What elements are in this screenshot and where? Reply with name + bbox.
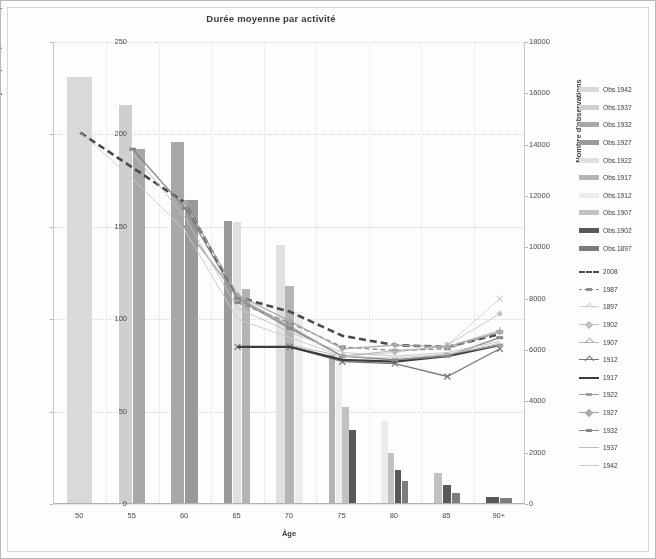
legend-label: 1927 — [603, 409, 618, 416]
y-axis-left-tick-label: 150 — [81, 222, 127, 231]
chart-title: Durée moyenne par activité — [1, 13, 541, 24]
legend-line-icon — [579, 285, 599, 294]
line-series — [80, 133, 500, 347]
legend-line-icon — [579, 461, 599, 470]
line-marker — [129, 148, 136, 151]
y-axis-right-tickmark — [525, 401, 528, 402]
legend-label: Obs.1942 — [603, 86, 632, 93]
x-axis-tick-label: 70 — [269, 511, 309, 520]
legend-item-bar[interactable]: Obs.1922 — [579, 151, 655, 169]
legend-label: 1922 — [603, 391, 618, 398]
legend-item-line[interactable]: 1937 — [579, 439, 655, 457]
y-axis-left-tickmark — [50, 134, 53, 135]
legend-label: Obs.1897 — [603, 245, 632, 252]
legend-item-line[interactable]: 1927 — [579, 404, 655, 422]
y-axis-right-tickmark — [525, 247, 528, 248]
y-axis-left-tickmark — [50, 319, 53, 320]
legend-swatch-icon — [579, 140, 599, 145]
y-axis-right-tick-label: 14000 — [529, 140, 575, 149]
legend-line-icon — [579, 408, 599, 417]
legend-swatch-icon — [579, 193, 599, 198]
legend-item-bar[interactable]: Obs.1912 — [579, 187, 655, 205]
legend-item-line[interactable]: 1902 — [579, 316, 655, 334]
line-series — [133, 153, 500, 356]
legend-swatch-icon — [579, 122, 599, 127]
legend-label: 1987 — [603, 286, 618, 293]
y-axis-right-tickmark — [525, 196, 528, 197]
legend-item-line[interactable]: 1987 — [579, 281, 655, 299]
line-marker — [391, 358, 398, 361]
legend-item-bar[interactable]: Obs.1927 — [579, 134, 655, 152]
y-axis-right-tick-label: 10000 — [529, 242, 575, 251]
chart-screenshot: Durée moyenne par activité Durée moyenne… — [0, 0, 656, 559]
legend-item-bar[interactable]: Obs.1937 — [579, 99, 655, 117]
plot-area — [53, 42, 525, 504]
legend-item-bar[interactable]: Obs.1917 — [579, 169, 655, 187]
legend-item-line[interactable]: 1897 — [579, 298, 655, 316]
line-series — [185, 203, 500, 349]
y-axis-right-tick-label: 16000 — [529, 88, 575, 97]
legend-item-line[interactable]: 1907 — [579, 333, 655, 351]
legend-item-line[interactable]: 1942 — [579, 457, 655, 475]
legend-line-icon — [579, 390, 599, 399]
legend-item-bar[interactable]: Obs.1902 — [579, 222, 655, 240]
y-axis-right-tick-label: 12000 — [529, 191, 575, 200]
legend-line-icon — [579, 302, 599, 311]
legend-label: 1897 — [603, 303, 618, 310]
legend-item-line[interactable]: 1932 — [579, 421, 655, 439]
legend-label: Obs.1937 — [603, 104, 632, 111]
legend-line-icon — [579, 267, 599, 276]
legend-label: 1902 — [603, 321, 618, 328]
legend-item-bar[interactable]: Obs.1932 — [579, 116, 655, 134]
legend-label: 1932 — [603, 427, 618, 434]
legend-label: 1912 — [603, 356, 618, 363]
legend-label: Obs.1927 — [603, 139, 632, 146]
y-axis-right-tickmark — [525, 504, 528, 505]
y-axis-left-tick-label: 0 — [81, 499, 127, 508]
legend-swatch-icon — [579, 246, 599, 251]
legend-label: Obs.1932 — [603, 121, 632, 128]
legend-item-line[interactable]: 2008 — [579, 263, 655, 281]
legend-item-line[interactable]: 1917 — [579, 369, 655, 387]
legend-line-icon — [579, 355, 599, 364]
legend-item-bar[interactable]: Obs.1907 — [579, 204, 655, 222]
legend-item-line[interactable]: 1912 — [579, 351, 655, 369]
line-marker — [234, 297, 241, 300]
legend-bars: Obs.1942Obs.1937Obs.1932Obs.1927Obs.1922… — [579, 81, 655, 257]
y-axis-right-tickmark — [525, 299, 528, 300]
y-axis-right-tick-label: 4000 — [529, 396, 575, 405]
legend-line-icon — [579, 338, 599, 347]
x-axis-tick-label: 85 — [426, 511, 466, 520]
x-axis-title: Âge — [53, 529, 525, 538]
legend-label: Obs.1907 — [603, 209, 632, 216]
legend-item-bar[interactable]: Obs.1897 — [579, 239, 655, 257]
y-axis-right-tickmark — [525, 453, 528, 454]
legend-item-line[interactable]: 1922 — [579, 386, 655, 404]
line-marker — [444, 355, 451, 358]
x-axis-tick-label: 55 — [112, 511, 152, 520]
legend-label: 1937 — [603, 444, 618, 451]
y-axis-right-tick-label: 0 — [529, 499, 575, 508]
legend-swatch-icon — [579, 158, 599, 163]
x-axis-tick-label: 50 — [59, 511, 99, 520]
line-series-layer — [54, 42, 526, 504]
y-axis-right-tickmark — [525, 350, 528, 351]
y-axis-left-tick-label: 200 — [81, 129, 127, 138]
legend-label: Obs.1912 — [603, 192, 632, 199]
x-axis-tick-label: 90+ — [479, 511, 519, 520]
y-axis-right-tickmark — [525, 145, 528, 146]
legend-item-bar[interactable]: Obs.1942 — [579, 81, 655, 99]
legend-label: Obs.1902 — [603, 227, 632, 234]
legend-label: 1907 — [603, 339, 618, 346]
line-marker — [182, 207, 189, 210]
legend-line-icon — [579, 320, 599, 329]
y-axis-left-tickmark — [50, 42, 53, 43]
legend-line-icon — [579, 373, 599, 382]
line-marker — [392, 342, 398, 348]
legend-swatch-icon — [579, 175, 599, 180]
legend-swatch-icon — [579, 210, 599, 215]
x-axis-tick-label: 80 — [374, 511, 414, 520]
legend-swatch-icon — [579, 228, 599, 233]
y-axis-right-tick-label: 8000 — [529, 294, 575, 303]
line-series — [133, 149, 500, 360]
